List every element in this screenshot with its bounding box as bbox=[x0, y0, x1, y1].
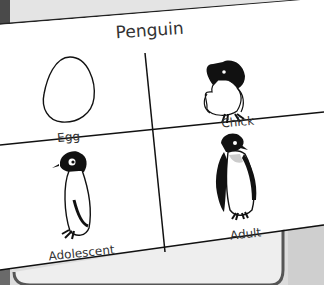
stage-label-egg: Egg bbox=[57, 129, 81, 145]
stage-label-chick: Chick bbox=[221, 114, 255, 131]
penguin-lifecycle-card-scene: Penguin Egg Chick Adolescent bbox=[0, 0, 324, 285]
